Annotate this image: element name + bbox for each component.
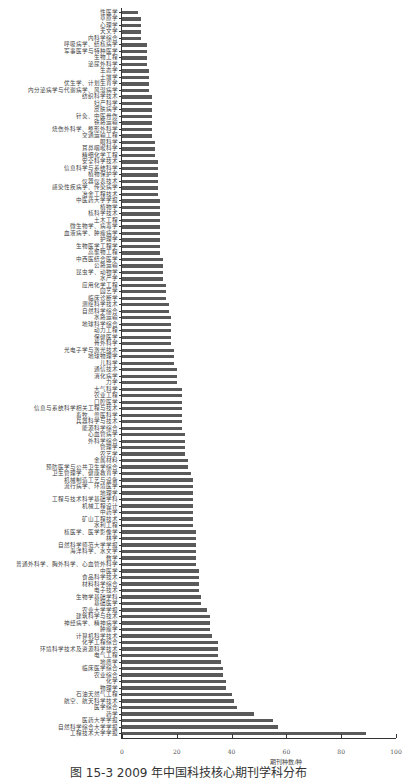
bar bbox=[122, 621, 210, 624]
bar bbox=[122, 420, 182, 423]
bar bbox=[122, 368, 177, 371]
bar bbox=[122, 316, 171, 319]
category-label: 外科学综合 bbox=[88, 438, 118, 444]
bar bbox=[122, 582, 199, 585]
bar bbox=[122, 595, 201, 598]
bar bbox=[122, 258, 163, 261]
category-label: 植物学 bbox=[100, 204, 118, 210]
category-label: 水利工程 bbox=[94, 522, 118, 528]
bar bbox=[122, 245, 160, 248]
bar bbox=[122, 154, 155, 157]
bar bbox=[122, 725, 278, 728]
category-label: 石油天然气工程 bbox=[76, 691, 118, 697]
category-label: 电气工程 bbox=[94, 652, 118, 658]
bar bbox=[122, 459, 188, 462]
x-tick-label: 80 bbox=[337, 748, 345, 755]
x-tick-label: 60 bbox=[283, 748, 291, 755]
category-label: 数学 bbox=[106, 555, 118, 561]
category-label: 电子技术 bbox=[94, 587, 118, 593]
category-label: 生物工程 bbox=[94, 54, 118, 60]
bar bbox=[122, 401, 182, 404]
bar bbox=[122, 660, 221, 663]
category-label: 地球物理学 bbox=[88, 353, 118, 359]
bar bbox=[122, 569, 199, 572]
bar bbox=[122, 517, 193, 520]
bar bbox=[122, 706, 237, 709]
category-label: 矿山工程技术 bbox=[82, 516, 118, 522]
category-label: 信息与系统科学相关工程与技术 bbox=[34, 405, 118, 411]
x-tick bbox=[232, 734, 233, 738]
category-label: 计算机科学技术 bbox=[76, 633, 118, 639]
x-tick-label: 40 bbox=[228, 748, 236, 755]
bar bbox=[122, 17, 141, 20]
bar bbox=[122, 719, 273, 722]
x-tick bbox=[177, 734, 178, 738]
category-label: 卫生管理学、健康教育学 bbox=[52, 470, 118, 476]
category-label: 基础医学 bbox=[94, 600, 118, 606]
category-label: 耳鼻咽喉科学 bbox=[82, 145, 118, 151]
category-label: 公路运输 bbox=[94, 262, 118, 268]
bar bbox=[122, 173, 158, 176]
category-label: 呼吸病学、结核病学 bbox=[64, 41, 118, 47]
bar bbox=[122, 673, 223, 676]
bar bbox=[122, 465, 188, 468]
bar bbox=[122, 69, 149, 72]
bar bbox=[122, 388, 182, 391]
bar bbox=[122, 433, 185, 436]
category-label: 地质学 bbox=[100, 659, 118, 665]
x-tick bbox=[122, 734, 123, 738]
bar bbox=[122, 108, 152, 111]
category-label: 植物保护学 bbox=[88, 171, 118, 177]
category-label: 临床诊断学 bbox=[88, 295, 118, 301]
category-label: 信息科学与系统科学 bbox=[64, 165, 118, 171]
category-label: 核医学、医学影像学 bbox=[64, 529, 118, 535]
bar bbox=[122, 478, 193, 481]
category-label: 农艺学 bbox=[100, 451, 118, 457]
category-label: 化学 bbox=[106, 678, 118, 684]
category-label: 生物学基础学科 bbox=[76, 594, 118, 600]
x-tick bbox=[341, 734, 342, 738]
category-label: 生态学 bbox=[100, 67, 118, 73]
bar bbox=[122, 699, 234, 702]
bar bbox=[122, 329, 171, 332]
bar bbox=[122, 686, 226, 689]
bar bbox=[122, 407, 182, 410]
category-label: 临床医学综合 bbox=[82, 665, 118, 671]
bar bbox=[122, 680, 226, 683]
figure-caption: 图 15-3 2009 年中国科技核心期刊学科分布 bbox=[70, 763, 307, 780]
bar bbox=[122, 297, 166, 300]
category-label: 农业大学学报 bbox=[82, 607, 118, 613]
bar bbox=[122, 134, 152, 137]
category-label: 医药大学学报 bbox=[82, 717, 118, 723]
bar bbox=[122, 647, 218, 650]
category-label: 建筑科学与技术 bbox=[76, 613, 118, 619]
category-label: 地理学 bbox=[100, 490, 118, 496]
category-label: 动力工程 bbox=[94, 327, 118, 333]
bar bbox=[122, 95, 152, 98]
category-label: 儿科学 bbox=[100, 360, 118, 366]
category-label: 环境科学技术及资源科学技术 bbox=[40, 646, 118, 652]
bar bbox=[122, 102, 152, 105]
category-label: 优生学、计划生育学 bbox=[64, 80, 118, 86]
category-label: 交通运输工程 bbox=[82, 132, 118, 138]
bar bbox=[122, 24, 141, 27]
bar bbox=[122, 556, 196, 559]
bar bbox=[122, 199, 160, 202]
category-label: 材料科学综合 bbox=[82, 581, 118, 587]
bar bbox=[122, 277, 163, 280]
bar bbox=[122, 342, 171, 345]
bar bbox=[122, 511, 193, 514]
category-label: 大气科学 bbox=[94, 386, 118, 392]
category-label: 工程与技术科学基础学科 bbox=[52, 496, 118, 502]
bar bbox=[122, 641, 218, 644]
category-label: 中药学 bbox=[100, 509, 118, 515]
bar bbox=[122, 712, 254, 715]
bar bbox=[122, 225, 160, 228]
bar bbox=[122, 50, 147, 53]
bar bbox=[122, 498, 193, 501]
category-label: 畜牧、兽医科学 bbox=[76, 412, 118, 418]
bar bbox=[122, 147, 155, 150]
category-label: 精细化学工程 bbox=[82, 152, 118, 158]
category-label: 天文学 bbox=[100, 28, 118, 34]
bar bbox=[122, 82, 149, 85]
